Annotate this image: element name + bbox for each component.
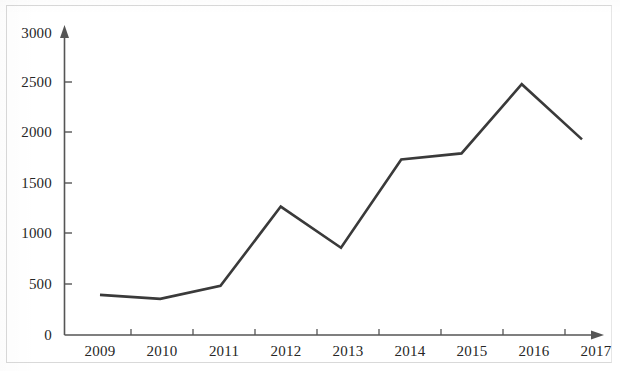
x-axis-label-2015: 2015 bbox=[441, 344, 503, 359]
data-series-line bbox=[100, 84, 582, 299]
y-axis-label-500: 500 bbox=[29, 277, 52, 292]
y-axis-label-2000: 2000 bbox=[21, 125, 52, 140]
chart-figure: 3000 2500 2000 1500 1000 500 0 2009 2010… bbox=[0, 0, 620, 371]
x-axis-label-2014: 2014 bbox=[379, 344, 441, 359]
x-axis-label-2012: 2012 bbox=[255, 344, 317, 359]
y-axis-label-2500: 2500 bbox=[21, 75, 52, 90]
x-axis-label-2017: 2017 bbox=[565, 344, 620, 359]
y-axis-arrow-icon bbox=[60, 25, 69, 38]
line-chart-canvas bbox=[0, 0, 620, 371]
x-axis-label-2010: 2010 bbox=[131, 344, 193, 359]
y-axis-label-0: 0 bbox=[44, 328, 52, 343]
y-axis-label-1000: 1000 bbox=[21, 226, 52, 241]
x-axis-label-2013: 2013 bbox=[317, 344, 379, 359]
x-axis-label-2009: 2009 bbox=[69, 344, 131, 359]
x-axis-ticks bbox=[131, 329, 565, 335]
y-axis-labels: 3000 2500 2000 1500 1000 500 0 bbox=[0, 0, 52, 371]
y-axis-ticks bbox=[65, 82, 73, 284]
x-axis-label-2011: 2011 bbox=[193, 344, 255, 359]
x-axis-label-2016: 2016 bbox=[503, 344, 565, 359]
x-axis-arrow-icon bbox=[591, 331, 604, 340]
y-axis-label-1500: 1500 bbox=[21, 176, 52, 191]
y-axis-label-3000: 3000 bbox=[21, 26, 52, 41]
